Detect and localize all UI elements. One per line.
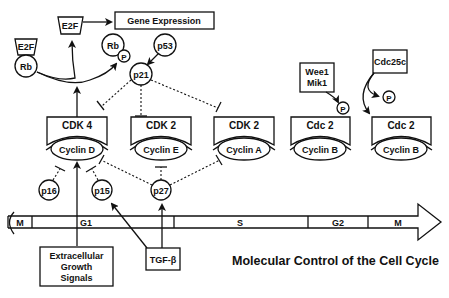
e2f-bound-label: E2F <box>18 42 35 52</box>
kinase-label: CDK 4 <box>62 120 92 131</box>
p27-inhibits-cdk2a <box>170 160 220 185</box>
phase-m-end: M <box>394 218 402 228</box>
p16-inhibits-cdk4 <box>53 169 60 180</box>
rb-bound-label: Rb <box>20 62 32 72</box>
cyclin-label: Cyclin E <box>143 145 179 155</box>
kinase-label: CDK 2 <box>229 120 259 131</box>
p21-label: p21 <box>133 70 149 80</box>
gene-expression-label: Gene Expression <box>127 16 201 26</box>
tgf-beta-label: TGF-β <box>150 255 177 265</box>
p16-label: p16 <box>41 186 57 196</box>
cyclin-label: Cyclin B <box>302 145 339 155</box>
p15-label: p15 <box>94 186 110 196</box>
p15-inhibits-cdk4 <box>92 169 98 180</box>
complex-cdc2-cyclinb-active: Cdc 2 Cyclin B <box>371 117 432 160</box>
cyclin-label: Cyclin B <box>383 145 420 155</box>
e2f-free-label: E2F <box>62 21 79 31</box>
inhibit-bar <box>86 166 96 172</box>
cyclin-label: Cyclin A <box>226 145 262 155</box>
complex-cdk4-cyclind: CDK 4 Cyclin D <box>46 117 108 160</box>
phase-g2: G2 <box>332 218 344 228</box>
complex-cdc2-cyclinb-inactive: Cdc 2 Cyclin B <box>290 117 351 160</box>
p27-inhibits-cdk4 <box>103 161 152 185</box>
wee1-label: Wee1 <box>305 67 328 77</box>
kinase-label: Cdc 2 <box>306 120 334 131</box>
p53-label: p53 <box>157 41 173 51</box>
wee1-phosphate-label: P <box>340 105 346 114</box>
kinase-label: Cdc 2 <box>387 120 415 131</box>
phase-g1: G1 <box>80 218 92 228</box>
inhibit-bar <box>55 166 65 171</box>
p27-label: p27 <box>153 186 169 196</box>
rb-release-e2f-arrow <box>37 42 75 79</box>
mik1-label: Mik1 <box>307 78 327 88</box>
cdc25c-phosphate-label: P <box>386 94 392 103</box>
extracellular-label-3: Signals <box>60 273 92 283</box>
e2f-rb-complex: E2F Rb <box>15 39 37 77</box>
kinase-label: CDK 2 <box>146 120 176 131</box>
cyclin-label: Cyclin D <box>59 145 96 155</box>
wee1-phosphorylation-arrow <box>326 92 338 102</box>
phase-m-start: M <box>16 218 24 228</box>
complex-cdk2-cyclina: CDK 2 Cyclin A <box>213 117 275 160</box>
phosphate-label: P <box>121 53 127 62</box>
cell-cycle-phase-bar: M G1 S G2 M <box>8 204 441 240</box>
p21-inhibits-cdk4 <box>102 80 131 106</box>
p53-to-p21-arrow <box>148 54 158 64</box>
inhibit-bar <box>216 155 222 165</box>
p21-inhibits-cdk2a <box>151 80 218 108</box>
cdc25c-label: Cdc25c <box>374 57 406 67</box>
inhibit-bar <box>216 102 221 112</box>
diagram-title: Molecular Control of the Cell Cycle <box>232 254 439 268</box>
extracellular-label-1: Extracellular <box>49 251 104 261</box>
cell-cycle-diagram: E2F Rb E2F Gene Expression Rb P p53 p21 … <box>0 0 449 298</box>
inhibit-bar <box>99 155 104 164</box>
cdc25c-dephosphorylation-arrow <box>368 73 378 96</box>
rb-phosphorylated: Rb P <box>102 34 130 62</box>
complex-cdk2-cycline: CDK 2 Cyclin E <box>130 117 192 160</box>
rb-phos-label: Rb <box>107 41 119 51</box>
phase-s: S <box>237 218 243 228</box>
extracellular-label-2: Growth <box>61 262 93 272</box>
rb-phosphorylation-arrow <box>37 64 116 83</box>
e2f-free: E2F <box>58 17 83 34</box>
